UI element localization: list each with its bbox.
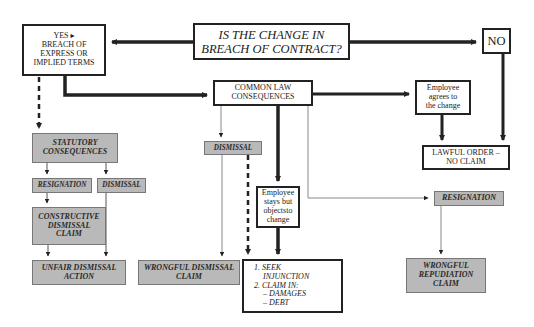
lawful-order-box: LAWFUL ORDER – NO CLAIM xyxy=(422,145,510,170)
constructive-line3: CLAIM xyxy=(56,230,82,239)
flowchart-canvas: IS THE CHANGE IN BREACH OF CONTRACT? YES… xyxy=(0,0,534,327)
agrees-line3: the change xyxy=(426,102,460,111)
cl-resignation-label: RESIGNATION xyxy=(442,194,496,203)
wrongful-repudiation-claim-box: WRONGFUL REPUDIATION CLAIM xyxy=(406,258,486,293)
statutory-line2: CONSEQUENCES xyxy=(43,148,107,157)
yes-breach-box: YES ▸ BREACH OF EXPRESS OR IMPLIED TERMS xyxy=(22,24,106,76)
unfair-dismissal-action-box: UNFAIR DISMISSAL ACTION xyxy=(32,260,126,285)
question-line1: IS THE CHANGE IN xyxy=(219,28,325,42)
cl-dismissal-label: DISMISSAL xyxy=(214,144,252,152)
statutory-resignation-box: RESIGNATION xyxy=(32,178,92,193)
repudiation-line3: CLAIM xyxy=(433,280,459,289)
common-law-line2: CONSEQUENCES xyxy=(231,93,294,102)
common-law-consequences-box: COMMON LAW CONSEQUENCES xyxy=(213,80,313,106)
stat-resignation-label: RESIGNATION xyxy=(38,181,87,189)
remedies-box: 1. SEEK INJUNCTION 2. CLAIM IN: – DAMAGE… xyxy=(242,259,343,313)
employee-stays-box: Employee stays but objectsto change xyxy=(256,186,300,228)
stat-dismissal-label: DISMISSAL xyxy=(102,181,140,189)
statutory-dismissal-box: DISMISSAL xyxy=(97,178,146,193)
lawful-line2: NO CLAIM xyxy=(446,158,485,167)
wrongful-dismissal-line2: CLAIM xyxy=(176,273,202,282)
wrongful-dismissal-claim-box: WRONGFUL DISMISSAL CLAIM xyxy=(138,260,240,285)
no-label: NO xyxy=(487,34,505,48)
common-law-resignation-box: RESIGNATION xyxy=(434,191,504,206)
remedy-debt: – DEBT xyxy=(254,299,289,308)
employee-agrees-box: Employee agrees to the change xyxy=(415,80,471,115)
constructive-dismissal-claim-box: CONSTRUCTIVE DISMISSAL CLAIM xyxy=(32,207,106,245)
unfair-line2: ACTION xyxy=(64,273,94,282)
statutory-consequences-box: STATUTORY CONSEQUENCES xyxy=(32,133,118,163)
question-box: IS THE CHANGE IN BREACH OF CONTRACT? xyxy=(193,23,350,60)
no-box: NO xyxy=(482,28,511,54)
question-line2: BREACH OF CONTRACT? xyxy=(201,42,341,56)
yes-line4: IMPLIED TERMS xyxy=(34,59,95,68)
common-law-dismissal-box: DISMISSAL xyxy=(204,141,262,155)
stays-line4: change xyxy=(267,216,290,225)
